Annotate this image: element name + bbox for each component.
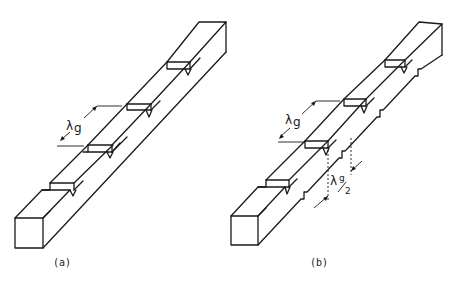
beam-b-front-face <box>231 216 258 245</box>
beam-a-bottom-right-edge <box>43 52 226 248</box>
step-b-3-top <box>344 60 405 99</box>
beam-a-base-top <box>15 190 70 218</box>
diagram-canvas: λ g (a) λ g <box>0 0 458 283</box>
step-a-3-top <box>127 62 190 104</box>
notch-b-3 <box>361 106 367 113</box>
notch-a-2 <box>107 152 113 158</box>
label-b-lambda: λ <box>285 113 292 127</box>
label-a-lambda: λ <box>66 119 73 133</box>
notch-b-4 <box>401 67 407 73</box>
notch-a-1 <box>70 190 76 196</box>
dimension-a-lambda-g: λ g <box>57 106 122 146</box>
beam-b-base-top <box>231 187 285 216</box>
step-a-1-top <box>50 145 113 183</box>
label-b-half-denominator: 2 <box>345 186 351 196</box>
arrowhead-b-down <box>279 134 284 139</box>
beam-b-end-top <box>385 22 442 60</box>
step-a-2 <box>88 145 112 152</box>
notch-a-3 <box>146 110 152 117</box>
caption-b: (b) <box>310 257 328 268</box>
panel-b-waveguide <box>231 22 442 245</box>
beam-a-end-top <box>167 22 226 62</box>
label-b-half-lambda: λ <box>330 174 337 188</box>
beam-b-side-edge-notched <box>258 55 442 245</box>
notch-a-4 <box>185 69 191 75</box>
step-a-1 <box>42 183 74 190</box>
step-b-1 <box>258 180 289 187</box>
step-b-1-top <box>266 141 328 180</box>
panel-a-waveguide <box>15 22 226 248</box>
label-b-g: g <box>293 115 301 129</box>
notch-b-1 <box>285 187 290 194</box>
arrowhead-b-half-left <box>323 196 328 201</box>
beam-a-front-face <box>15 218 43 248</box>
label-b-half-g: g <box>339 173 345 183</box>
label-a-g: g <box>74 121 82 135</box>
caption-a: (a) <box>53 257 71 268</box>
